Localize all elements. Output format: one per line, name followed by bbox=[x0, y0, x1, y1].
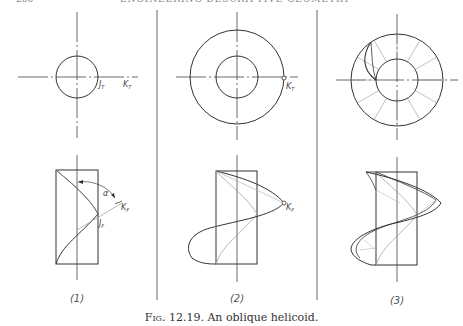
panel-1-label: (1) bbox=[70, 293, 84, 304]
panel-2-top-view: KT bbox=[176, 12, 298, 140]
label-kf: KF bbox=[121, 203, 129, 213]
panel-2-front-view: KF bbox=[188, 155, 294, 282]
panel-1-front-view: α KF JF bbox=[56, 155, 129, 280]
label-kf-2: KF bbox=[286, 203, 294, 213]
panel-3-label: (3) bbox=[390, 295, 404, 306]
label-jt: JT bbox=[97, 80, 105, 90]
panel-3-top-view bbox=[336, 14, 458, 140]
panel-1-top-view: JT KT bbox=[18, 12, 138, 138]
panel-2-label: (2) bbox=[230, 293, 244, 304]
label-jf: JF bbox=[97, 219, 104, 229]
label-kt-2: KT bbox=[286, 82, 295, 92]
cylinder-outline bbox=[376, 172, 417, 265]
caption-prefix: Fig. 12.19. bbox=[145, 311, 204, 324]
helicoid-figure: JT KT α KF JF (1) KT bbox=[0, 0, 463, 326]
caption-text: An oblique helicoid. bbox=[207, 311, 318, 324]
point-kt bbox=[282, 76, 286, 80]
panel-3-front-view bbox=[351, 157, 441, 282]
label-alpha: α bbox=[103, 189, 109, 198]
cylinder-outline bbox=[216, 171, 257, 264]
figure-caption: Fig. 12.19. An oblique helicoid. bbox=[0, 311, 463, 324]
label-kt: KT bbox=[123, 80, 132, 90]
